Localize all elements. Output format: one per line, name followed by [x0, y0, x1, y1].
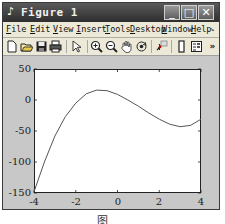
- figure-window: ♪ Figure 1 _ □ ✕ File Edit View Insert T…: [2, 2, 220, 210]
- menu-view-label: iew: [58, 24, 73, 34]
- colorbar-icon[interactable]: [175, 40, 188, 53]
- window-title: Figure 1: [21, 6, 78, 19]
- menu-window[interactable]: Window: [162, 23, 193, 36]
- legend-icon[interactable]: [190, 40, 203, 53]
- toolbar-separator: [151, 40, 152, 53]
- print-icon[interactable]: [49, 40, 62, 53]
- zoom-out-icon[interactable]: [105, 40, 118, 53]
- figure-caption: 图: [97, 212, 108, 224]
- data-cursor-icon[interactable]: [155, 40, 168, 53]
- toolbar-separator: [87, 40, 88, 53]
- menu-window-label: indow: [167, 24, 193, 34]
- zoom-in-icon[interactable]: [90, 40, 103, 53]
- pan-hand-icon[interactable]: [120, 40, 133, 53]
- menu-help[interactable]: Help: [191, 23, 211, 36]
- menu-insert-label: nsert: [81, 24, 107, 34]
- menu-file[interactable]: File: [6, 23, 26, 36]
- matlab-figure-icon: ♪: [7, 6, 19, 18]
- menu-bar: File Edit View Insert Tools Desktop Wind…: [3, 22, 219, 38]
- menu-dock-arrow-icon[interactable]: ↘: [210, 23, 214, 36]
- title-bar[interactable]: ♪ Figure 1 _ □ ✕: [3, 3, 219, 22]
- plot-line-layer: [3, 56, 219, 216]
- save-icon[interactable]: [35, 40, 48, 53]
- rotate-3d-icon[interactable]: [135, 40, 148, 53]
- figure-toolbar: »: [3, 38, 219, 56]
- new-figure-icon[interactable]: [5, 40, 18, 53]
- menu-edit-label: dit: [35, 24, 50, 34]
- toolbar-separator: [171, 40, 172, 53]
- toolbar-separator: [66, 40, 67, 53]
- menu-tools-label: ools: [110, 24, 130, 34]
- menu-tools[interactable]: Tools: [105, 23, 131, 36]
- toolbar-overflow-icon[interactable]: »: [206, 40, 219, 53]
- maximize-button[interactable]: □: [181, 5, 197, 20]
- menu-insert[interactable]: Insert: [76, 23, 107, 36]
- menu-desktop[interactable]: Desktop: [130, 23, 166, 36]
- menu-edit[interactable]: Edit: [30, 23, 50, 36]
- minimize-button[interactable]: _: [164, 5, 180, 20]
- figure-canvas: 50 0 -50 -100 -150 -4 -2 0 2 4: [3, 56, 219, 209]
- menu-file-label: ile: [11, 24, 26, 34]
- open-file-icon[interactable]: [20, 40, 33, 53]
- edit-plot-arrow-icon[interactable]: [70, 40, 83, 53]
- close-button[interactable]: ✕: [198, 5, 214, 20]
- menu-view[interactable]: View: [53, 23, 73, 36]
